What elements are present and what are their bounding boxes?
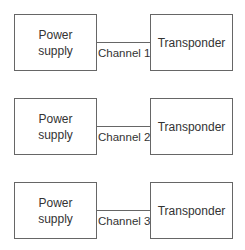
channel-label: Channel 2: [98, 131, 150, 143]
channel-connector-line: [96, 210, 151, 211]
power-supply-label: Power supply: [26, 111, 86, 143]
channel-connector-line: [96, 126, 151, 127]
transponder-box: Transponder: [150, 182, 233, 239]
transponder-box: Transponder: [150, 14, 233, 71]
transponder-box: Transponder: [150, 98, 233, 155]
transponder-label: Transponder: [158, 203, 226, 219]
transponder-label: Transponder: [158, 119, 226, 135]
channel-row-2: Power supply Channel 2 Transponder: [0, 84, 245, 168]
power-supply-box: Power supply: [14, 182, 97, 239]
channel-label: Channel 1: [98, 47, 150, 59]
power-supply-label: Power supply: [26, 27, 86, 59]
channel-row-1: Power supply Channel 1 Transponder: [0, 0, 245, 84]
power-supply-box: Power supply: [14, 14, 97, 71]
channel-row-3: Power supply Channel 3 Transponder: [0, 168, 245, 250]
channel-label: Channel 3: [98, 215, 150, 227]
power-supply-label: Power supply: [26, 195, 86, 227]
channel-connector-line: [96, 42, 151, 43]
power-supply-box: Power supply: [14, 98, 97, 155]
transponder-label: Transponder: [158, 35, 226, 51]
